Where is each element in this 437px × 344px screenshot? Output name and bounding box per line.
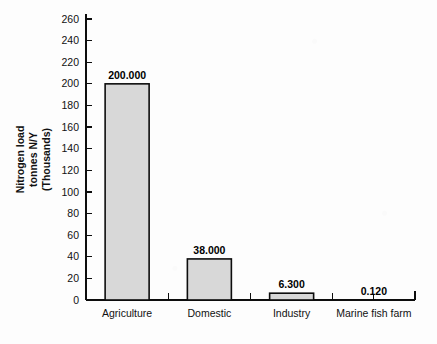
bar	[187, 259, 231, 300]
y-axis-ticks: 020406080100120140160180200220240260	[61, 13, 92, 306]
y-axis-title: Nitrogen loadtonnes N/Y(Thousands)	[14, 126, 52, 194]
y-tick-label: 160	[61, 121, 79, 133]
y-tick-label: 260	[61, 13, 79, 25]
bar-value-label: 38.000	[193, 244, 225, 256]
x-category-label: Agriculture	[102, 307, 152, 319]
y-tick-label: 220	[61, 56, 79, 68]
y-tick-label: 40	[67, 250, 79, 262]
bar-value-label: 200.000	[108, 69, 146, 81]
y-tick-label: 20	[67, 272, 79, 284]
bar	[270, 293, 314, 300]
x-category-label: Domestic	[187, 307, 231, 319]
chart-canvas: 020406080100120140160180200220240260200.…	[0, 0, 437, 344]
y-tick-label: 180	[61, 99, 79, 111]
y-tick-label: 140	[61, 142, 79, 154]
y-axis-title-line: tonnes N/Y	[27, 132, 39, 187]
bar-series: 200.00038.0006.3000.120	[105, 69, 387, 300]
y-tick-label: 60	[67, 229, 79, 241]
x-axis-category-labels: AgricultureDomesticIndustryMarine fish f…	[102, 307, 412, 319]
y-axis-title-line: Nitrogen load	[14, 126, 26, 194]
bar-value-label: 6.300	[278, 278, 304, 290]
y-tick-label: 100	[61, 186, 79, 198]
y-tick-label: 200	[61, 77, 79, 89]
y-tick-label: 120	[61, 164, 79, 176]
bar	[105, 84, 149, 300]
y-tick-label: 80	[67, 207, 79, 219]
bar-value-label: 0.120	[361, 285, 387, 297]
y-tick-label: 0	[73, 294, 79, 306]
y-tick-label: 240	[61, 34, 79, 46]
bar-chart-figure: 020406080100120140160180200220240260200.…	[0, 0, 437, 344]
y-axis-title-line: (Thousands)	[40, 128, 52, 191]
x-category-label: Industry	[273, 307, 311, 319]
x-axis-ticks	[127, 293, 374, 300]
x-category-label: Marine fish farm	[336, 307, 412, 319]
